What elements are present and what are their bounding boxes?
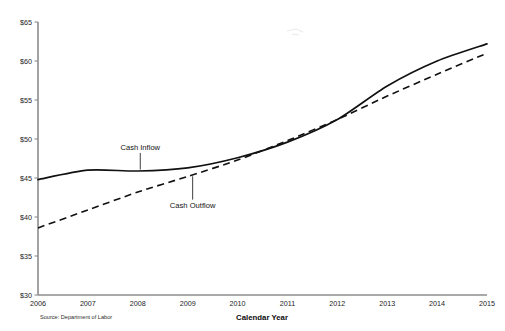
x-axis-tick-labels: 2006200720082009201020112012201320142015 xyxy=(30,299,495,308)
x-tick-label: 2011 xyxy=(280,299,295,308)
y-tick-label: $45 xyxy=(20,174,32,183)
cash-flow-line-chart: $30$35$40$45$50$55$60$65 200620072008200… xyxy=(0,0,505,331)
x-tick-label: 2015 xyxy=(479,299,495,308)
series-annotation-label: Cash Outflow xyxy=(170,201,216,210)
x-tick-label: 2006 xyxy=(30,299,46,308)
x-tick-label: 2012 xyxy=(329,299,345,308)
chart-canvas: $30$35$40$45$50$55$60$65 200620072008200… xyxy=(0,0,505,331)
x-axis-title: Calendar Year xyxy=(236,313,288,322)
y-tick-label: $65 xyxy=(20,18,32,27)
y-tick-label: $35 xyxy=(20,252,32,261)
y-tick-label: $40 xyxy=(20,213,32,222)
series-line-cash-inflow xyxy=(38,44,487,180)
scan-artifact xyxy=(287,29,303,35)
axis-lines xyxy=(38,22,487,295)
series-annotation-label: Cash Inflow xyxy=(120,143,160,152)
x-tick-label: 2007 xyxy=(80,299,96,308)
x-tick-label: 2014 xyxy=(429,299,445,308)
x-tick-label: 2013 xyxy=(379,299,395,308)
series-annotations: Cash InflowCash Outflow xyxy=(120,143,216,210)
y-tick-label: $55 xyxy=(20,96,32,105)
x-tick-label: 2009 xyxy=(180,299,196,308)
x-tick-label: 2010 xyxy=(230,299,246,308)
y-axis-tick-labels: $30$35$40$45$50$55$60$65 xyxy=(20,18,32,300)
x-tick-label: 2008 xyxy=(130,299,146,308)
y-tick-label: $60 xyxy=(20,57,32,66)
series-line-cash-outflow xyxy=(38,53,487,228)
source-note: Source: Department of Labor xyxy=(40,314,112,320)
y-tick-label: $50 xyxy=(20,135,32,144)
